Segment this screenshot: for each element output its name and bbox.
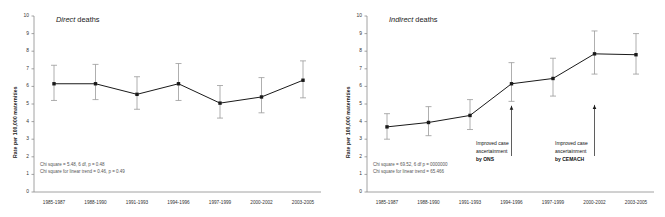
x-tick-label: 1988-1990 <box>417 200 439 205</box>
callout-cemach-line3: by CEMACH <box>555 156 588 164</box>
y-tick-label: 3 <box>17 136 29 141</box>
y-tick-label: 10 <box>17 13 29 18</box>
y-tick-label: 1 <box>17 171 29 176</box>
chi-square-trend-text-right: Chi square for linear trend = 65.466 <box>373 168 448 175</box>
x-tick-label: 2003-2005 <box>292 200 314 205</box>
y-tick-label: 5 <box>17 101 29 106</box>
y-tick-label: 7 <box>350 66 362 71</box>
chart-panel-indirect-deaths: Rate per 100,000 maternities Indirect de… <box>333 0 665 217</box>
chart-panel-direct-deaths: Rate per 100,000 maternities Direct deat… <box>0 0 332 217</box>
callout-cemach-line2: ascertainment <box>555 148 588 156</box>
statistics-annotation-right: Chi square = 69.52, 6 df p = 0000000 Chi… <box>373 161 448 176</box>
y-tick-label: 6 <box>17 83 29 88</box>
chi-square-text-right: Chi square = 69.52, 6 df p = 0000000 <box>373 161 448 168</box>
x-tick-label: 1985-1987 <box>43 200 65 205</box>
chi-square-text-left: Chi square = 5.48, 6 df, p = 0.48 <box>40 161 125 168</box>
y-tick-label: 9 <box>350 31 362 36</box>
y-tick-label: 3 <box>350 136 362 141</box>
y-tick-label: 10 <box>350 13 362 18</box>
y-tick-label: 1 <box>350 171 362 176</box>
x-tick-label: 1991-1993 <box>459 200 481 205</box>
y-tick-label: 4 <box>17 119 29 124</box>
y-tick-label: 5 <box>350 101 362 106</box>
x-tick-label: 1988-1990 <box>84 200 106 205</box>
y-tick-label: 2 <box>350 154 362 159</box>
x-tick-label: 2000-2002 <box>250 200 272 205</box>
y-tick-label: 6 <box>350 83 362 88</box>
x-tick-label: 1997-1999 <box>542 200 564 205</box>
y-tick-label: 0 <box>350 189 362 194</box>
y-tick-label: 7 <box>17 66 29 71</box>
x-tick-label: 1985-1987 <box>376 200 398 205</box>
callout-ons-line1: Improved case <box>476 140 509 148</box>
y-tick-label: 8 <box>17 48 29 53</box>
callout-ons-line3: by ONS <box>476 156 509 164</box>
x-tick-label: 1994-1996 <box>500 200 522 205</box>
x-tick-label: 1997-1999 <box>209 200 231 205</box>
callout-ons: Improved case ascertainment by ONS <box>476 140 509 163</box>
figure-maternal-mortality-rates: Rate per 100,000 maternities Direct deat… <box>0 0 665 217</box>
y-tick-label: 8 <box>350 48 362 53</box>
plot-area-indirect-deaths <box>333 0 665 217</box>
x-tick-label: 1991-1993 <box>126 200 148 205</box>
callout-cemach: Improved case ascertainment by CEMACH <box>555 140 588 163</box>
callout-cemach-line1: Improved case <box>555 140 588 148</box>
y-tick-label: 9 <box>17 31 29 36</box>
plot-area-direct-deaths <box>0 0 332 217</box>
y-tick-label: 4 <box>350 119 362 124</box>
statistics-annotation-left: Chi square = 5.48, 6 df, p = 0.48 Chi sq… <box>40 161 125 176</box>
x-tick-label: 2003-2005 <box>625 200 647 205</box>
y-tick-label: 0 <box>17 189 29 194</box>
x-tick-label: 2000-2002 <box>583 200 605 205</box>
x-tick-label: 1994-1996 <box>167 200 189 205</box>
y-tick-label: 2 <box>17 154 29 159</box>
callout-ons-line2: ascertainment <box>476 148 509 156</box>
chi-square-trend-text-left: Chi square for linear trend = 0.46, p = … <box>40 168 125 175</box>
data-series-direct-deaths <box>51 61 306 118</box>
